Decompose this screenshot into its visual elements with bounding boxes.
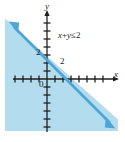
origin-label: 0 xyxy=(39,80,44,89)
inequality-constant: 2 xyxy=(76,30,81,40)
y-tick-label-2: 2 xyxy=(36,48,41,57)
y-axis-label: y xyxy=(45,2,49,11)
inequality-graph-figure: y x 0 2 2 x+y≤2 xyxy=(0,0,125,142)
x-axis-label: x xyxy=(114,70,118,79)
x-tick-label-2: 2 xyxy=(60,57,65,66)
inequality-annotation: x+y≤2 xyxy=(58,31,81,40)
graph-canvas xyxy=(0,0,125,142)
